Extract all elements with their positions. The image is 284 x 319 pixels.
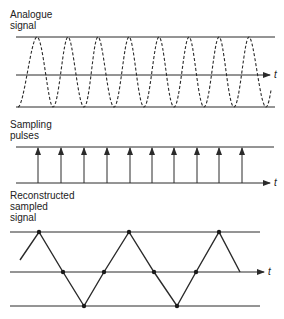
sample-point [217, 230, 221, 234]
sample-point [194, 270, 198, 274]
reconstructed-t-label: t [268, 266, 272, 277]
analogue-sine-wave [18, 37, 271, 107]
sample-point [102, 270, 106, 274]
sampling-panel [16, 147, 274, 183]
analogue-t-label: t [274, 69, 278, 80]
sampling-pulse-arrows [38, 148, 242, 183]
sample-points [37, 230, 221, 308]
sample-point [37, 230, 41, 234]
reconstructed-panel [10, 230, 264, 308]
sample-point [152, 270, 156, 274]
sample-point [175, 304, 179, 308]
sampling-t-label: t [274, 177, 278, 188]
sample-point [61, 270, 65, 274]
analogue-panel [16, 37, 275, 107]
reconstructed-triangle-wave [20, 232, 240, 306]
sample-point [127, 230, 131, 234]
sample-point [82, 304, 86, 308]
sampling-diagram: t t [0, 0, 284, 319]
